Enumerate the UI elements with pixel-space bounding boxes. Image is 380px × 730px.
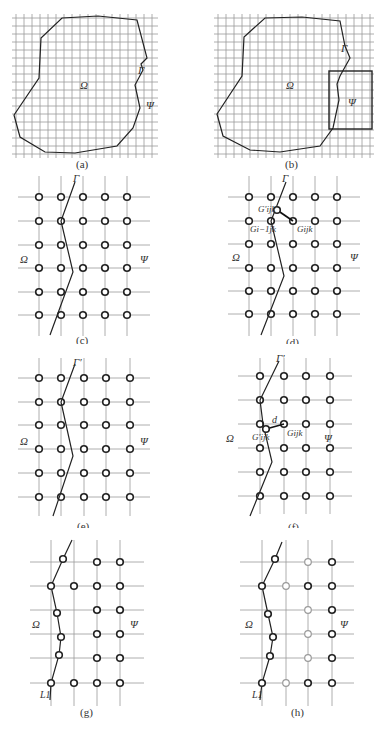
panel-a-diagram: Ω Γ Ψ (a) bbox=[0, 0, 190, 172]
panel-d: Γ G′ijk Gi−1jk Gijk Ω Ψ (d) bbox=[190, 172, 380, 344]
panel-h-diagram: Ω Ψ L1 (h) bbox=[190, 530, 380, 730]
label-psi: Ψ bbox=[350, 251, 359, 263]
panel-f: Γ′ d G′ijk Gijk Ω Ψ (f) bbox=[190, 344, 380, 528]
caption-e: (e) bbox=[77, 520, 90, 528]
label-omega: Ω bbox=[20, 253, 28, 265]
caption-f: (f) bbox=[288, 521, 299, 528]
label-gamma-prime: Γ′ bbox=[72, 356, 82, 368]
label-omega: Ω bbox=[32, 618, 40, 630]
panel-e: Γ′ Ω Ψ (e) bbox=[0, 344, 190, 528]
label-gamma: Γ bbox=[281, 172, 289, 184]
label-g-prime: G′ijk bbox=[252, 432, 270, 442]
label-psi: Ψ bbox=[140, 435, 149, 447]
panel-h: Ω Ψ L1 (h) bbox=[190, 530, 380, 730]
label-omega: Ω bbox=[226, 432, 234, 444]
caption-h: (h) bbox=[291, 706, 304, 719]
panel-b: Ω Γ Ψ (b) bbox=[190, 0, 380, 172]
label-psi: Ψ bbox=[340, 618, 349, 630]
label-omega: Ω bbox=[232, 251, 240, 263]
label-psi: Ψ bbox=[130, 618, 139, 630]
panel-g: Ω Ψ L1 (g) bbox=[0, 530, 190, 730]
label-g-ijk: Gijk bbox=[287, 428, 304, 438]
label-psi: Ψ bbox=[348, 96, 357, 108]
label-omega: Ω bbox=[80, 79, 88, 91]
label-omega: Ω bbox=[20, 435, 28, 447]
label-gamma-prime: Γ′ bbox=[275, 352, 285, 364]
label-g-prime: G′ijk bbox=[258, 204, 276, 214]
label-psi: Ψ bbox=[324, 432, 333, 444]
label-psi: Ψ bbox=[146, 99, 155, 111]
panel-f-diagram: Γ′ d G′ijk Gijk Ω Ψ (f) bbox=[190, 344, 380, 528]
label-omega: Ω bbox=[286, 79, 294, 91]
caption-b: (b) bbox=[285, 158, 298, 171]
caption-a: (a) bbox=[76, 158, 89, 171]
panel-c-diagram: Γ Ω Ψ (c) bbox=[0, 172, 190, 344]
label-g-ijk: Gijk bbox=[297, 224, 314, 234]
boundary-gamma-prime bbox=[53, 364, 75, 516]
label-g-i-minus-1: Gi−1jk bbox=[250, 224, 277, 234]
grid-b bbox=[214, 14, 374, 158]
label-omega: Ω bbox=[245, 618, 253, 630]
panel-b-diagram: Ω Γ Ψ (b) bbox=[190, 0, 380, 172]
label-gamma: Γ bbox=[340, 42, 348, 54]
active-nodes bbox=[305, 559, 336, 687]
panel-a: Ω Γ Ψ (a) bbox=[0, 0, 190, 172]
label-gamma: Γ bbox=[137, 64, 145, 76]
label-l1: L1 bbox=[251, 689, 263, 700]
grid-h bbox=[240, 540, 354, 706]
boundary-polyline-l1 bbox=[50, 540, 72, 700]
label-d: d bbox=[272, 414, 278, 425]
boundary-polyline-l1 bbox=[260, 542, 282, 700]
panel-g-diagram: Ω Ψ L1 (g) bbox=[0, 530, 190, 730]
caption-d: (d) bbox=[286, 336, 299, 344]
label-psi: Ψ bbox=[140, 253, 149, 265]
grid-g bbox=[30, 540, 144, 706]
boundary-intersection-nodes bbox=[48, 556, 67, 687]
caption-g: (g) bbox=[80, 706, 93, 719]
caption-c: (c) bbox=[76, 334, 89, 344]
label-l1: L1 bbox=[39, 689, 51, 700]
label-gamma: Γ bbox=[72, 172, 80, 184]
panel-c: Γ Ω Ψ (c) bbox=[0, 172, 190, 344]
grid-nodes bbox=[36, 375, 134, 501]
panel-e-diagram: Γ′ Ω Ψ (e) bbox=[0, 344, 190, 528]
panel-d-diagram: Γ G′ijk Gi−1jk Gijk Ω Ψ (d) bbox=[190, 172, 380, 344]
inactive-nodes bbox=[283, 559, 312, 687]
